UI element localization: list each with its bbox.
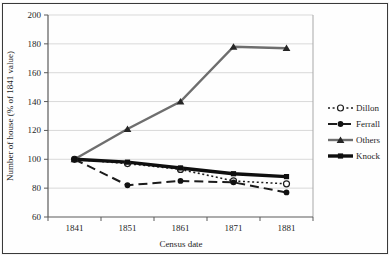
legend-label: Others xyxy=(356,135,380,145)
legend: DillonFerrallOthersKnock xyxy=(328,103,380,161)
data-point-knock-1851 xyxy=(125,160,130,165)
data-point-knock-1841 xyxy=(72,157,77,162)
grid-layer xyxy=(48,15,313,217)
x-tick-label: 1861 xyxy=(172,223,190,233)
data-point-ferrall-1851 xyxy=(125,182,131,188)
legend-label: Knock xyxy=(356,151,380,161)
y-tick-label: 120 xyxy=(28,125,42,135)
x-tick-label: 1841 xyxy=(66,223,84,233)
x-tick-label: 1881 xyxy=(278,223,296,233)
y-tick-label: 100 xyxy=(28,154,42,164)
y-tick-label: 80 xyxy=(32,183,42,193)
data-point-ferrall-1881 xyxy=(284,190,290,196)
chart-frame: 2001801601401201008060184118511861187118… xyxy=(2,3,388,254)
x-tick-label: 1851 xyxy=(119,223,137,233)
data-point-dillon-1881 xyxy=(284,181,290,187)
legend-item-dillon: Dillon xyxy=(328,103,380,113)
legend-item-others: Others xyxy=(328,135,380,145)
data-point-knock-1861 xyxy=(178,165,183,170)
data-point-ferrall-1871 xyxy=(231,179,237,185)
x-tick-label: 1871 xyxy=(225,223,243,233)
data-point-ferrall-1861 xyxy=(178,178,184,184)
legend-marker xyxy=(338,153,343,158)
y-tick-label: 140 xyxy=(28,97,42,107)
legend-item-knock: Knock xyxy=(328,151,380,161)
x-axis-title: Census date xyxy=(159,239,202,249)
series-layer xyxy=(71,43,291,195)
legend-marker xyxy=(338,105,344,111)
legend-label: Dillon xyxy=(356,103,380,113)
legend-item-ferrall: Ferrall xyxy=(328,119,380,129)
legend-label: Ferrall xyxy=(356,119,380,129)
y-tick-label: 180 xyxy=(28,39,42,49)
line-chart: 2001801601401201008060184118511861187118… xyxy=(3,4,387,253)
y-tick-label: 160 xyxy=(28,68,42,78)
y-axis-title: Number of house (% of 1841 value) xyxy=(5,51,15,181)
data-point-knock-1881 xyxy=(284,174,289,179)
y-tick-label: 200 xyxy=(28,10,42,20)
data-point-knock-1871 xyxy=(231,171,236,176)
legend-marker xyxy=(338,121,344,127)
y-tick-label: 60 xyxy=(32,212,42,222)
